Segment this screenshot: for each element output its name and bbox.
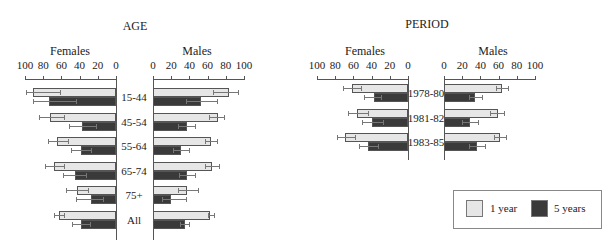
period-error-cap — [337, 135, 338, 140]
period-error-cap — [383, 120, 384, 125]
period-male-tick-label: 100 — [523, 59, 547, 71]
age-male-tick — [244, 76, 245, 80]
age-error-cap — [64, 115, 65, 120]
age-error-cap — [178, 188, 179, 193]
age-error-bar — [48, 141, 68, 142]
period-error-bar — [364, 97, 380, 98]
period-chart-title: PERIOD — [392, 17, 462, 32]
age-error-cap — [54, 213, 55, 218]
period-category-label: 1981-82 — [406, 112, 446, 124]
age-error-cap — [72, 222, 73, 227]
period-error-bar — [490, 113, 504, 114]
age-error-cap — [219, 164, 220, 169]
age-male-tick — [189, 76, 190, 80]
age-females-label: Females — [40, 44, 100, 59]
age-error-cap — [45, 164, 46, 169]
age-error-cap — [64, 213, 65, 218]
age-error-bar — [205, 141, 217, 142]
age-error-bar — [45, 166, 64, 167]
age-error-cap — [213, 90, 214, 95]
period-error-bar — [494, 137, 506, 138]
legend-swatch-5-years — [531, 200, 548, 217]
age-error-cap — [195, 124, 196, 129]
period-error-cap — [362, 120, 363, 125]
period-category-label: 1978-80 — [406, 87, 446, 99]
age-male-x-axis — [153, 79, 245, 80]
age-error-cap — [69, 124, 70, 129]
age-error-cap — [205, 139, 206, 144]
age-error-cap — [60, 90, 61, 95]
age-male-tick — [153, 76, 154, 80]
age-error-cap — [66, 188, 67, 193]
age-error-cap — [162, 197, 163, 202]
age-error-bar — [33, 101, 76, 102]
period-error-cap — [490, 111, 491, 116]
period-error-cap — [359, 144, 360, 149]
period-error-cap — [462, 120, 463, 125]
age-error-bar — [209, 117, 224, 118]
age-female-tick — [43, 76, 44, 80]
period-error-cap — [508, 86, 509, 91]
age-chart-title: AGE — [105, 19, 165, 34]
legend-label-5-years: 5 years — [554, 202, 585, 214]
period-male-tick — [462, 76, 463, 80]
period-female-tick — [408, 76, 409, 80]
period-female-x-axis — [317, 79, 409, 80]
age-error-cap — [214, 213, 215, 218]
age-category-label: 75+ — [114, 189, 154, 201]
age-error-bar — [66, 190, 88, 191]
period-error-cap — [469, 144, 470, 149]
age-error-cap — [195, 173, 196, 178]
age-error-bar — [162, 199, 186, 200]
age-error-bar — [26, 92, 60, 93]
age-error-cap — [189, 222, 190, 227]
period-error-cap — [478, 120, 479, 125]
age-error-cap — [68, 139, 69, 144]
age-error-bar — [205, 166, 219, 167]
age-error-bar — [178, 126, 194, 127]
age-error-cap — [39, 115, 40, 120]
period-error-cap — [368, 111, 369, 116]
period-bar-males-1yr — [444, 133, 500, 142]
age-error-bar — [71, 150, 91, 151]
age-female-tick — [61, 76, 62, 80]
period-female-tick — [317, 76, 318, 80]
age-error-cap — [48, 139, 49, 144]
age-error-cap — [238, 90, 239, 95]
age-error-cap — [86, 173, 87, 178]
period-error-cap — [355, 135, 356, 140]
age-error-cap — [178, 124, 179, 129]
age-error-cap — [173, 148, 174, 153]
period-female-tick-label: 100 — [305, 59, 329, 71]
age-error-cap — [103, 197, 104, 202]
age-error-bar — [213, 92, 238, 93]
period-error-cap — [378, 144, 379, 149]
period-error-bar — [496, 88, 508, 89]
period-error-cap — [504, 111, 505, 116]
age-error-cap — [76, 197, 77, 202]
age-bar-males-1yr — [153, 211, 210, 220]
age-error-cap — [205, 164, 206, 169]
period-male-tick — [444, 76, 445, 80]
age-error-bar — [179, 175, 194, 176]
age-category-label: 15-44 — [114, 91, 154, 103]
age-error-cap — [224, 115, 225, 120]
age-error-cap — [189, 148, 190, 153]
age-female-tick — [25, 76, 26, 80]
period-error-bar — [359, 146, 378, 147]
age-error-bar — [63, 175, 86, 176]
age-error-bar — [173, 150, 189, 151]
period-error-cap — [494, 135, 495, 140]
period-error-cap — [361, 86, 362, 91]
age-error-bar — [39, 117, 64, 118]
period-error-cap — [485, 144, 486, 149]
age-error-cap — [179, 173, 180, 178]
period-error-bar — [462, 122, 477, 123]
age-error-bar — [69, 126, 96, 127]
age-error-bar — [178, 190, 198, 191]
age-error-cap — [186, 197, 187, 202]
period-male-x-axis — [444, 79, 536, 80]
age-error-cap — [64, 164, 65, 169]
age-error-cap — [88, 188, 89, 193]
age-error-cap — [180, 222, 181, 227]
